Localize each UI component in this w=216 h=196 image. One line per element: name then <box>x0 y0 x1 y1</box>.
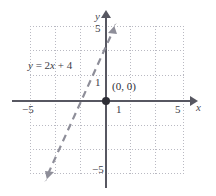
y-tick-label-one: 1 <box>95 76 101 88</box>
equation-plus-sign: + <box>55 59 67 71</box>
equation-annotation: y = 2x + 4 <box>28 59 72 71</box>
y-tick-label-negative-five: −5 <box>92 163 104 175</box>
y-axis-label: y <box>95 10 100 22</box>
coordinate-plane-figure: x y −5 1 5 5 1 −5 (0, 0) y = 2x + 4 <box>0 0 216 196</box>
gridline-horizontal <box>30 173 184 174</box>
gridline-horizontal <box>30 50 184 51</box>
point-marker-icon <box>102 97 110 105</box>
x-tick-label-negative-five: −5 <box>22 103 34 115</box>
x-axis-label: x <box>196 101 201 113</box>
x-tick-label-one: 1 <box>116 103 122 115</box>
equation-constant: 4 <box>67 59 73 71</box>
y-tick-label-five: 5 <box>95 22 101 34</box>
x-tick-label-five: 5 <box>175 103 181 115</box>
gridline-horizontal <box>30 75 184 76</box>
origin-point-label: (0, 0) <box>112 80 136 92</box>
gridline-horizontal <box>30 149 184 150</box>
gridline-horizontal <box>30 26 184 27</box>
equation-equals-sign: = <box>33 59 45 71</box>
gridline-horizontal <box>30 125 184 126</box>
arrow-up-icon <box>101 10 111 18</box>
